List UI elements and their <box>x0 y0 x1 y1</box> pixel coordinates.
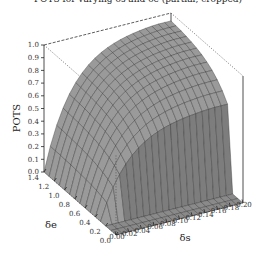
z-tick-label: 0.4 <box>28 118 40 126</box>
z-tick-label: 0.9 <box>28 54 39 62</box>
chart-title: POTS for varying δs and δe (partial, cro… <box>34 0 242 4</box>
y-tick-label: 1.4 <box>28 174 40 182</box>
y-tick-label: 1.0 <box>48 192 59 200</box>
z-axis-label: POTS <box>11 104 22 133</box>
z-tick-label: 0.1 <box>28 156 39 164</box>
y-tick-label: 0.8 <box>59 201 70 209</box>
x-tick-label: 0.20 <box>236 201 252 209</box>
y-tick-label: 0.6 <box>69 210 81 218</box>
y-tick-label: 1.2 <box>38 183 49 191</box>
z-tick-label: 0.7 <box>28 79 39 87</box>
y-tick-label: 0.4 <box>79 219 91 227</box>
z-tick-label: 1.0 <box>28 41 39 49</box>
x-axis-label: δs <box>179 232 190 243</box>
z-axis-ticks: 0.00.10.20.30.40.50.60.70.80.91.0 <box>28 41 44 176</box>
y-axis-label: δe <box>45 219 57 230</box>
z-tick-label: 0.3 <box>28 130 39 138</box>
z-tick-label: 0.6 <box>28 92 40 100</box>
z-tick-label: 0.5 <box>28 105 39 113</box>
z-tick-label: 0.8 <box>28 67 39 75</box>
z-tick-label: 0.2 <box>28 143 39 151</box>
surface-chart: POTS for varying δs and δe (partial, cro… <box>0 0 276 260</box>
y-tick-label: 0.2 <box>90 228 101 236</box>
surface-mesh <box>44 21 243 235</box>
